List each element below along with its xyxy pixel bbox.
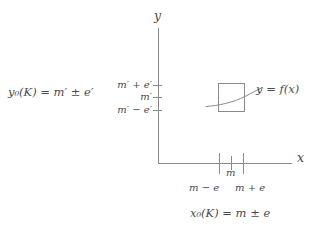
y-axis-line	[158, 28, 159, 164]
x-tick-label-lower-bound: m − e	[189, 183, 219, 193]
equation-x-domain-text: x₀(K) = m ± e	[190, 206, 270, 220]
function-curve-label: y = f(x)	[256, 84, 299, 96]
figure-canvas: y₀(K) = m′ ± e′ y m′ + e′ m′ m′ − e′ x m…	[0, 0, 312, 235]
y-tick-label-group: m′ + e′ m′ m′ − e′	[96, 0, 152, 235]
y-tick-mark-center	[153, 97, 162, 98]
x-tick-mark-lower-bound	[219, 153, 220, 174]
y-tick-mark-lower	[153, 110, 162, 111]
x-axis-label: x	[297, 152, 304, 165]
y-tick-mark-upper	[153, 85, 162, 86]
x-tick-label-center: m	[226, 168, 235, 178]
equation-y-range: y₀(K) = m′ ± e′	[8, 87, 94, 99]
x-tick-mark-upper-bound	[243, 153, 244, 174]
y-tick-label-center: m′	[140, 92, 152, 102]
y-tick-label-upper: m′ + e′	[117, 80, 152, 90]
x-tick-label-upper-bound: m + e	[235, 183, 265, 193]
x-axis-line	[158, 163, 292, 164]
equation-y-range-text: y₀(K) = m′ ± e′	[8, 85, 94, 99]
equation-x-domain: x₀(K) = m ± e	[190, 208, 270, 220]
y-axis-label: y	[154, 10, 161, 23]
y-tick-label-lower: m′ − e′	[117, 105, 152, 115]
